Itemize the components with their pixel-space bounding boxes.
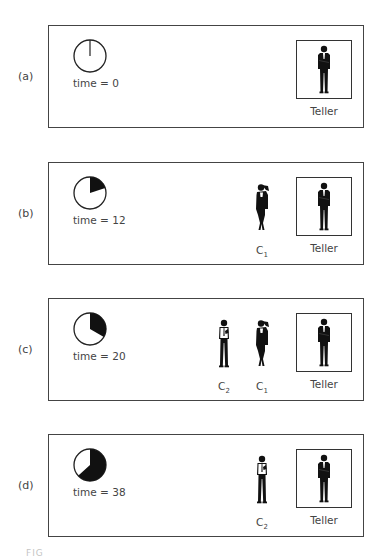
clock-icon [73,448,107,482]
teller-label: Teller [296,514,352,526]
teller-box [296,40,352,99]
teller-figure-icon [314,45,334,95]
woman-figure-icon [252,319,272,369]
customer-label: C1 [252,244,272,259]
teller-label: Teller [296,378,352,390]
panel-label-b: (b) [18,207,34,220]
man-figure-icon [252,455,272,505]
panel-b: time = 12C1 Teller [48,162,364,265]
time-label: time = 0 [73,77,119,89]
teller-figure-icon [314,454,334,504]
customer-label: C2 [214,380,234,395]
customer-label: C2 [252,516,272,531]
clock-icon [73,39,107,73]
teller-label: Teller [296,242,352,254]
teller-figure-icon [314,182,334,232]
teller-label: Teller [296,105,352,117]
panel-label-c: (c) [18,343,33,356]
panel-d: time = 38C2 Teller [48,434,364,537]
teller-box [296,177,352,236]
man-figure-icon [214,319,234,369]
panel-label-d: (d) [18,479,34,492]
figure-caption-fragment: FIG [26,548,44,557]
panel-c: time = 20C2C1 Teller [48,298,364,401]
panel-a: time = 0 Teller [48,25,364,128]
woman-figure-icon [252,183,272,233]
teller-box [296,313,352,372]
time-label: time = 12 [73,214,126,226]
customer-label: C1 [252,380,272,395]
clock-icon [73,312,107,346]
panel-label-a: (a) [18,70,33,83]
teller-box [296,449,352,508]
time-label: time = 20 [73,350,126,362]
clock-icon [73,176,107,210]
time-label: time = 38 [73,486,126,498]
teller-figure-icon [314,318,334,368]
